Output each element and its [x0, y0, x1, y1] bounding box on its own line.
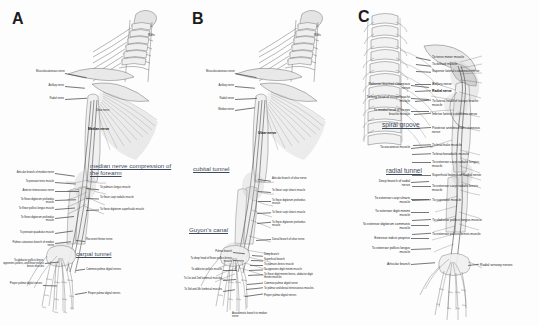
- label-proper-palmar-digital-a: Proper palmar digital nerves: [8, 282, 42, 285]
- label-edc: To extensor digitorum communis muscle: [360, 222, 410, 230]
- label-anastomotic-branch: Anastomotic branch to median nerve: [232, 312, 274, 318]
- label-inferior-lateral-cutaneous: Inferior lateral cutaneous nerve: [432, 112, 480, 116]
- label-palmaris-longus: To palmaris longus muscle: [100, 186, 144, 189]
- label-ulnar-nerve-a: Ulnar nerve: [96, 109, 116, 112]
- label-brachioradialis: To brachioradialis muscle: [432, 152, 469, 156]
- label-deep-branch: Deep branch: [264, 253, 279, 256]
- label-edm: To extensor digiti minimi muscle: [364, 209, 410, 217]
- panel-a-median-nerve: A: [0, 0, 180, 326]
- label-common-palmar-digital: Common palmar digital nerves: [86, 268, 126, 271]
- label-lumbrical-1-2: To 1st and 2nd lumbrical muscles: [180, 277, 222, 280]
- label-proper-palmar-digital-a2: Proper palmar digital nerves: [88, 292, 132, 295]
- label-palmar-branch: Palmar branch: [198, 250, 232, 253]
- label-fdp-b2: To flexor digitorum profundus muscle: [272, 221, 314, 227]
- label-thenar-muscles: To abductor pollicis brevis, opponens po…: [2, 259, 44, 268]
- label-deep-head-fpb: To deep head of flexor pollicis brevis m…: [188, 257, 232, 263]
- label-ecu: To extensor carpi ulnaris muscle: [364, 196, 410, 204]
- label-fcr: To flexor carpi radialis muscle: [100, 196, 142, 199]
- label-fds: To flexor digitorum superficialis muscle: [100, 208, 146, 211]
- label-median-nerve-b: Median nerve: [214, 108, 234, 111]
- label-teres-minor: To teres minor muscle: [432, 55, 496, 59]
- label-proper-palmar-digital-b: Proper palmar digital nerves: [264, 294, 296, 297]
- panel-b-ulnar-nerve: B: [180, 0, 350, 326]
- label-lateral-head-triceps: To lateral head of triceps brachii muscl…: [432, 99, 484, 107]
- label-fdp-a2: To flexor digitorum profundus muscle: [12, 216, 54, 222]
- label-abductor-pollicis-longus: To abductor pollicis longus muscle: [432, 218, 484, 222]
- label-long-head-triceps: To long head of triceps brachii muscle: [366, 95, 410, 103]
- label-posterior-brachial-cutaneous: Posterior brachial cutaneous nerve: [368, 82, 410, 90]
- label-anterior-interosseous: Anterior interosseous nerve: [8, 189, 54, 192]
- label-dorsal-branch-ulnar: Dorsal branch of ulnar nerve: [272, 238, 312, 241]
- label-medial-head-triceps: To medial head of triceps brachii muscle: [366, 108, 410, 116]
- label-extensor-pollicis-longus: To extensor pollicis longus muscle: [364, 246, 410, 254]
- panel-c-radial-nerve-label: Radial nerve: [432, 89, 452, 93]
- label-fcu-b2: To flexor carpi ulnaris muscle: [272, 211, 312, 214]
- panel-a-median-nerve-label: Median nerve: [88, 128, 110, 132]
- label-musculocutaneous-nerve-a: Musculocutaneous nerve: [36, 70, 64, 73]
- guyons-canal-site: Guyon's canal: [189, 226, 228, 233]
- label-articular-branch-median: Articular branch of median nerve: [12, 171, 54, 174]
- label-axillary-nerve-a: Axillary nerve: [44, 84, 64, 87]
- label-articular-branch-ulnar: Articular branch of ulnar nerve: [272, 177, 312, 180]
- label-palmar-cutaneous-branch: Palmar cutaneous branch of median nerve: [6, 241, 54, 247]
- anatomy-figure: A: [0, 0, 539, 326]
- label-brachialis: To brachialis muscle: [432, 143, 462, 147]
- label-articular-branch-c: Articular branch: [376, 262, 410, 266]
- label-extensor-indicis-proprius: Extensor indicis proprius: [360, 236, 410, 240]
- label-lumbrical-3-4: To 3rd and 4th lumbrical muscles: [184, 288, 222, 291]
- label-opponens-digiti-minimi: To opponens digiti minimi muscle: [264, 268, 302, 271]
- label-superior-lateral-cutaneous: Superior lateral cutaneous nerve: [432, 69, 482, 73]
- label-radial-sensory-nerves: Radial sensory nerves: [480, 263, 520, 267]
- label-axillary-nerve-c: Axillary nerve: [432, 82, 452, 86]
- label-pronator-quadratus: To pronator quadratus muscle: [16, 231, 54, 234]
- label-superficial-branch: Superficial branch: [264, 258, 285, 261]
- label-anconeus: To anconeus muscle: [376, 145, 410, 149]
- panel-c-radial-nerve: C: [350, 0, 539, 326]
- label-common-palmar-digital-b: Common palmar digital nerve: [264, 282, 298, 285]
- label-fcu-b1: To flexor carpi ulnaris muscle: [272, 189, 312, 192]
- label-axillary-nerve-b: Axillary nerve: [214, 84, 234, 87]
- label-supinator: To supinator muscle: [432, 198, 461, 202]
- label-adductor-pollicis: To adductor pollicis muscle: [182, 268, 222, 271]
- label-posterior-antebrachial-cutaneous: Posterior antebrachial cutaneous nerve: [432, 126, 484, 134]
- label-superficial-branch-radial: Superficial branch of Radial nerve: [432, 173, 482, 177]
- label-roots-a: Roots: [148, 34, 162, 37]
- label-palmaris-brevis: To palmaris brevis muscle: [264, 263, 294, 266]
- spiral-groove-site: spiral groove: [382, 121, 420, 129]
- label-radial-nerve-a: Radial nerve: [44, 97, 64, 100]
- label-deltoid: To deltoid muscle: [432, 62, 496, 66]
- label-fdp-b1: To flexor digitorum profundus muscle: [272, 199, 314, 205]
- label-extensor-pollicis-brevis: To extensor pollicis brevis muscle: [432, 232, 484, 236]
- label-fpl-a: To flexor pollicis longus muscle: [14, 207, 54, 210]
- label-fdp-a1: To flexor digitorum profundus muscle: [12, 198, 54, 204]
- label-ecrb: To extensor carpi radialis brevis muscle: [432, 184, 486, 192]
- radial-tunnel-site: radial tunnel: [386, 167, 422, 175]
- carpal-tunnel-site: carpal tunnel: [76, 250, 111, 257]
- cubital-tunnel-site: cubital tunnel: [193, 165, 229, 172]
- label-pronator-teres: To pronator teres muscle: [16, 180, 54, 183]
- label-ecrl: To extensor carpi radialis longus muscle: [432, 160, 488, 168]
- label-interosseous-muscles: To palmar and dorsal interosseous muscle…: [264, 287, 314, 290]
- panel-b-ulnar-nerve-label: Ulnar nerve: [258, 132, 278, 136]
- label-hypothenar-muscles: To flexor digiti minimi brevis, abductor…: [264, 273, 316, 279]
- label-deep-branch-radial: Deep branch of radial nerve: [370, 179, 410, 187]
- label-roots-b: Roots: [314, 34, 328, 37]
- label-musculocutaneous-nerve-b: Musculocutaneous nerve: [206, 70, 234, 73]
- median-nerve-compression-site: median nerve compression of the forearm: [90, 162, 178, 177]
- label-recurrent-thenar-nerve: Recurrent thenar nerve: [86, 238, 126, 241]
- label-radial-nerve-b: Radial nerve: [214, 97, 234, 100]
